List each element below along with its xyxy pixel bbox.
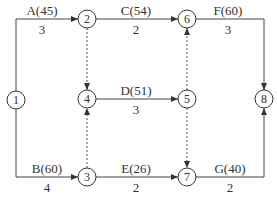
activity-C-name: C(54) bbox=[121, 4, 151, 17]
activity-B-duration: 4 bbox=[44, 181, 51, 194]
arrow-A bbox=[16, 19, 78, 91]
activity-E-name: E(26) bbox=[121, 162, 151, 175]
activity-A-duration: 3 bbox=[39, 23, 46, 36]
activity-D-duration: 3 bbox=[133, 103, 140, 116]
activity-G-duration: 2 bbox=[227, 181, 234, 194]
node-2-label: 2 bbox=[84, 13, 90, 25]
node-3-label: 3 bbox=[84, 171, 90, 183]
node-5-label: 5 bbox=[184, 93, 190, 105]
activity-B-name: B(60) bbox=[32, 162, 62, 175]
node-4-label: 4 bbox=[84, 93, 90, 105]
activity-F-name: F(60) bbox=[214, 4, 243, 17]
activity-A-name: A(45) bbox=[26, 4, 57, 17]
node-8-label: 8 bbox=[261, 93, 267, 105]
activity-E-duration: 2 bbox=[133, 181, 140, 194]
activity-F-duration: 3 bbox=[225, 23, 232, 36]
node-1-label: 1 bbox=[13, 94, 19, 106]
node-7-label: 7 bbox=[184, 171, 190, 183]
activity-C-duration: 2 bbox=[133, 23, 140, 36]
node-6-label: 6 bbox=[184, 13, 190, 25]
activity-G-name: G(40) bbox=[214, 162, 245, 175]
activity-D-name: D(51) bbox=[120, 84, 151, 97]
